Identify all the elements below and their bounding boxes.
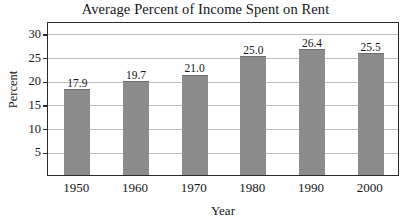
bar-value-label: 17.9 bbox=[52, 77, 102, 89]
y-axis-tick bbox=[43, 58, 48, 59]
y-axis-tick bbox=[43, 34, 48, 35]
y-axis-tick bbox=[43, 153, 48, 154]
bar bbox=[358, 53, 384, 175]
gridline bbox=[48, 153, 398, 154]
x-axis-tick-label: 1970 bbox=[164, 180, 224, 195]
x-axis-tick-labels: 195019601970198019902000 bbox=[47, 180, 399, 198]
bar-value-label: 25.5 bbox=[346, 41, 396, 53]
bar-value-label: 19.7 bbox=[111, 69, 161, 81]
bar bbox=[182, 75, 208, 176]
gridline bbox=[48, 105, 398, 106]
y-axis-tick bbox=[43, 82, 48, 83]
chart-title: Average Percent of Income Spent on Rent bbox=[0, 1, 411, 18]
y-axis-tick-label: 10 bbox=[7, 123, 41, 135]
x-axis-tick-label: 1960 bbox=[105, 180, 165, 195]
bar bbox=[123, 81, 149, 175]
bar-value-label: 21.0 bbox=[170, 62, 220, 74]
y-axis-tick-label: 20 bbox=[7, 75, 41, 87]
bar bbox=[240, 56, 266, 175]
y-axis-tick-label: 15 bbox=[7, 99, 41, 111]
plot-area: 17.919.721.025.026.425.5 bbox=[47, 22, 399, 176]
y-axis-tick bbox=[43, 105, 48, 106]
y-axis-tick bbox=[43, 129, 48, 130]
x-axis-tick-label: 1990 bbox=[281, 180, 341, 195]
x-axis-tick-label: 2000 bbox=[340, 180, 400, 195]
y-axis-tick-labels: 51015202530 bbox=[0, 22, 41, 176]
gridline bbox=[48, 58, 398, 59]
x-axis-tick-label: 1950 bbox=[46, 180, 106, 195]
bar bbox=[299, 49, 325, 175]
gridline bbox=[48, 34, 398, 35]
y-axis-tick-label: 30 bbox=[7, 28, 41, 40]
bar-chart: Average Percent of Income Spent on Rent … bbox=[0, 0, 411, 221]
y-axis-tick-label: 25 bbox=[7, 52, 41, 64]
y-axis-tick-label: 5 bbox=[7, 146, 41, 158]
bar-value-label: 25.0 bbox=[228, 44, 278, 56]
gridline bbox=[48, 129, 398, 130]
bar bbox=[64, 89, 90, 175]
x-axis-tick-label: 1980 bbox=[222, 180, 282, 195]
x-axis-title: Year bbox=[47, 203, 399, 219]
bar-value-label: 26.4 bbox=[287, 37, 337, 49]
